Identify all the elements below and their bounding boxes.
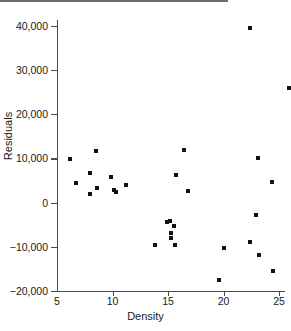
data-point xyxy=(182,148,186,152)
zero-reference-line xyxy=(0,0,228,2)
y-axis-tick-label: 20,000 xyxy=(16,109,48,119)
data-point xyxy=(114,190,118,194)
data-point xyxy=(88,171,92,175)
data-point xyxy=(257,253,261,257)
y-axis-tick xyxy=(51,114,57,115)
x-axis-tick-label: 20 xyxy=(204,296,244,306)
data-point xyxy=(254,213,258,217)
y-axis-title: Residuals xyxy=(2,91,14,181)
x-axis-tick-label: 15 xyxy=(148,296,188,306)
y-axis-tick xyxy=(51,203,57,204)
data-point xyxy=(95,186,99,190)
y-axis-tick xyxy=(51,247,57,248)
data-point xyxy=(256,156,260,160)
data-point xyxy=(248,240,252,244)
data-point xyxy=(173,243,177,247)
data-point xyxy=(168,219,172,223)
y-axis-tick xyxy=(51,70,57,71)
data-point xyxy=(124,183,128,187)
x-axis-tick-label: 5 xyxy=(37,296,77,306)
y-axis-tick xyxy=(51,26,57,27)
data-point xyxy=(88,192,92,196)
data-point xyxy=(186,189,190,193)
y-axis-tick-label: 30,000 xyxy=(16,65,48,75)
data-point xyxy=(271,269,275,273)
data-point xyxy=(153,243,157,247)
data-point xyxy=(217,278,221,282)
scatter-plot-figure: −20,000−10,000010,00020,00030,00040,000 … xyxy=(0,0,291,331)
x-axis-line xyxy=(57,291,285,292)
y-axis-tick-label: 0 xyxy=(42,198,48,208)
data-point xyxy=(169,236,173,240)
y-axis-line xyxy=(57,20,58,292)
x-axis-tick-label: 25 xyxy=(259,296,291,306)
y-axis-tick-label: −20,000 xyxy=(10,286,48,296)
y-axis-tick-label: −10,000 xyxy=(10,242,48,252)
x-axis-tick-label: 10 xyxy=(93,296,133,306)
y-axis-tick-label: 10,000 xyxy=(16,153,48,163)
data-point xyxy=(248,26,252,30)
data-point xyxy=(169,231,173,235)
data-point xyxy=(74,181,78,185)
data-point xyxy=(222,246,226,250)
data-point xyxy=(68,157,72,161)
data-point xyxy=(174,173,178,177)
y-axis-tick xyxy=(51,158,57,159)
data-point xyxy=(94,149,98,153)
y-axis-tick xyxy=(51,291,57,292)
y-axis-tick-label: 40,000 xyxy=(16,21,48,31)
data-point xyxy=(109,175,113,179)
data-point xyxy=(270,180,274,184)
x-axis-title: Density xyxy=(0,310,291,322)
data-point xyxy=(287,86,291,90)
data-point xyxy=(172,224,176,228)
